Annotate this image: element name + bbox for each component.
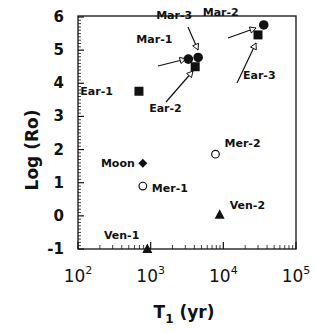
y-tick-label: -1 [47,240,64,258]
x-axis-title: T1 (yr) [154,302,215,326]
marker-mar-2 [259,20,269,30]
y-tick-label: 2 [54,141,64,159]
point-labels: Ear-1Ear-2Ear-3Mar-1Mar-2Mar-3MoonMer-1M… [80,6,275,242]
y-tick-label: 1 [54,174,64,192]
x-tick-label: 102 [64,264,93,286]
x-tick-label: 103 [136,264,165,286]
scatter-chart: -10123456 102103104105 Ear-1Ear-2Ear-3Ma… [0,0,317,333]
marker-ear-2 [191,62,200,71]
label-mar-2: Mar-2 [203,6,239,19]
marker-mar-1 [184,54,194,64]
label-ear-3: Ear-3 [243,69,276,82]
y-axis-title: Log (Ro) [22,110,42,191]
label-ven-1: Ven-1 [104,229,139,242]
x-tick-label: 104 [209,264,238,286]
label-mar-1: Mar-1 [136,33,172,46]
annotation-arrows [158,27,256,102]
y-tick-label: 0 [54,207,64,225]
marker-mer-1 [139,182,147,190]
marker-mar-3 [193,53,203,63]
y-tick-label: 6 [54,8,64,26]
x-tick-label: 105 [282,264,311,286]
marker-ven-2 [215,209,225,219]
label-ear-2: Ear-2 [149,102,182,115]
marker-mer-2 [212,150,220,158]
label-mar-3: Mar-3 [156,9,192,22]
marker-ear-1 [134,87,143,96]
label-ven-2: Ven-2 [230,199,265,212]
marker-ear-3 [254,30,263,39]
plot-frame [78,16,296,249]
y-tick-label: 4 [54,74,64,92]
label-mer-1: Mer-1 [152,182,188,195]
y-tick-label: 5 [54,41,64,59]
label-ear-1: Ear-1 [80,85,113,98]
y-tick-label: 3 [54,107,64,125]
marker-moon [138,159,147,168]
label-mer-2: Mer-2 [224,137,260,150]
arrowhead-icon [251,43,257,50]
arrowhead-icon [193,43,199,50]
label-moon: Moon [101,157,135,170]
